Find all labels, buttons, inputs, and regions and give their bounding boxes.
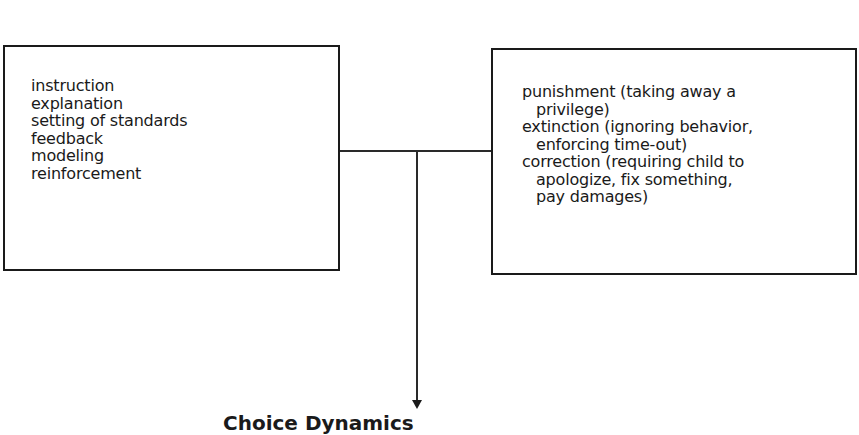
item-main-text: extinction (ignoring behavior, xyxy=(522,117,753,136)
list-item-punishment: punishment (taking away a privilege) xyxy=(522,83,753,118)
list-item-feedback: feedback xyxy=(31,130,187,148)
vertical-connector-line xyxy=(416,151,418,402)
item-main-text: correction (requiring child to xyxy=(522,152,744,171)
positive-strategies-box: instruction explanation setting of stand… xyxy=(3,45,340,271)
item-continuation-text: enforcing time-out) xyxy=(522,136,753,154)
arrow-down-icon xyxy=(412,400,422,409)
item-main-text: punishment (taking away a xyxy=(522,82,736,101)
item-continuation-text: pay damages) xyxy=(522,188,753,206)
result-label: Choice Dynamics xyxy=(223,411,414,435)
list-item-extinction: extinction (ignoring behavior, enforcing… xyxy=(522,118,753,153)
item-continuation-text: privilege) xyxy=(522,101,753,119)
list-item-setting-of-standards: setting of standards xyxy=(31,112,187,130)
item-continuation-text: apologize, fix something, xyxy=(522,171,753,189)
corrective-strategies-box: punishment (taking away a privilege) ext… xyxy=(491,48,857,275)
positive-strategies-list: instruction explanation setting of stand… xyxy=(31,77,187,182)
corrective-strategies-list: punishment (taking away a privilege) ext… xyxy=(522,83,753,206)
list-item-instruction: instruction xyxy=(31,77,187,95)
list-item-modeling: modeling xyxy=(31,147,187,165)
list-item-correction: correction (requiring child to apologize… xyxy=(522,153,753,206)
list-item-explanation: explanation xyxy=(31,95,187,113)
list-item-reinforcement: reinforcement xyxy=(31,165,187,183)
